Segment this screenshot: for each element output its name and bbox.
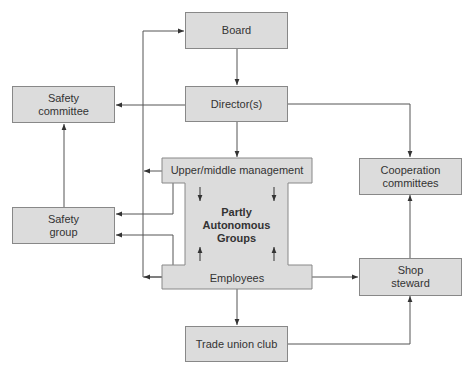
autonomous-groups-line-1: Partly bbox=[185, 206, 288, 219]
safety-committee-label-1: Safety bbox=[48, 92, 79, 105]
shop-steward-node: Shop steward bbox=[359, 258, 462, 296]
cooperation-committees-label-2: committees bbox=[382, 177, 438, 190]
directors-label: Director(s) bbox=[211, 98, 262, 111]
cooperation-committees-label-1: Cooperation bbox=[381, 164, 441, 177]
autonomous-groups-label: Partly Autonomous Groups bbox=[185, 206, 288, 245]
safety-group-label-1: Safety bbox=[48, 213, 79, 226]
safety-committee-label-2: committee bbox=[38, 105, 89, 118]
shop-steward-label-2: steward bbox=[391, 277, 430, 290]
shop-steward-label-1: Shop bbox=[398, 264, 424, 277]
autonomous-groups-line-2: Autonomous bbox=[185, 219, 288, 232]
upper-middle-management-label: Upper/middle management bbox=[162, 164, 312, 176]
safety-group-node: Safety group bbox=[12, 207, 115, 244]
board-node: Board bbox=[185, 12, 288, 49]
trade-union-club-node: Trade union club bbox=[185, 326, 288, 362]
safety-group-label-2: group bbox=[49, 226, 77, 239]
trade-union-club-label: Trade union club bbox=[196, 338, 278, 351]
board-label: Board bbox=[222, 24, 251, 37]
cooperation-committees-node: Cooperation committees bbox=[359, 158, 462, 195]
employees-label: Employees bbox=[162, 272, 312, 284]
safety-committee-node: Safety committee bbox=[12, 86, 115, 123]
directors-node: Director(s) bbox=[185, 86, 288, 122]
autonomous-groups-line-3: Groups bbox=[185, 232, 288, 245]
